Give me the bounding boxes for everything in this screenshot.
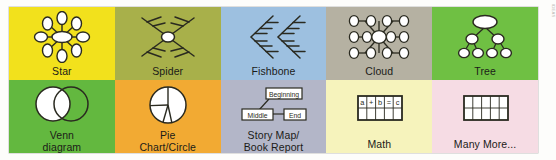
math-table-icon: a + b = c xyxy=(326,80,432,139)
cell-spider[interactable]: Spider xyxy=(115,7,221,80)
math-cell-b: b xyxy=(378,98,382,107)
organizer-grid: Star xyxy=(9,7,538,153)
cell-label-pie: Pie Chart/Circle xyxy=(115,130,221,153)
math-cell-plus: + xyxy=(369,98,373,107)
cell-pie[interactable]: Pie Chart/Circle xyxy=(115,80,221,153)
fishbone-diagram-icon xyxy=(221,7,327,66)
math-cell-c: c xyxy=(396,98,400,107)
cell-label-cloud: Cloud xyxy=(326,66,432,81)
cell-star[interactable]: Star xyxy=(9,7,115,80)
story-box-label-middle: Middle xyxy=(248,112,268,119)
cell-label-math: Math xyxy=(326,139,432,154)
math-cell-equals: = xyxy=(387,98,391,107)
story-map-icon: Beginning Middle End xyxy=(221,80,327,130)
tree-diagram-icon xyxy=(432,7,538,66)
cell-many-more[interactable]: Many More... xyxy=(432,80,538,153)
cell-label-star: Star xyxy=(9,66,115,81)
story-box-label-beginning: Beginning xyxy=(269,91,299,99)
graphic-organizers-chart: Star xyxy=(0,0,556,160)
cell-label-many-more: Many More... xyxy=(432,139,538,154)
venn-diagram-icon xyxy=(9,80,115,130)
blank-table-icon xyxy=(432,80,538,139)
pie-chart-icon xyxy=(115,80,221,130)
cell-label-story-map-line2: Book Report xyxy=(221,142,327,154)
cell-label-spider: Spider xyxy=(115,66,221,81)
watermark-credit: IDEAS xyxy=(546,4,555,18)
cell-tree[interactable]: Tree xyxy=(432,7,538,80)
story-box-label-end: End xyxy=(289,112,301,119)
cloud-diagram-icon xyxy=(326,7,432,66)
cell-label-venn: Venn diagram xyxy=(9,130,115,153)
cell-venn[interactable]: Venn diagram xyxy=(9,80,115,153)
cell-label-story-map: Story Map/ Book Report xyxy=(221,130,327,153)
cell-label-tree: Tree xyxy=(432,66,538,81)
cell-label-venn-line1: Venn xyxy=(9,130,115,142)
cell-label-venn-line2: diagram xyxy=(9,142,115,154)
cell-cloud[interactable]: Cloud xyxy=(326,7,432,80)
spider-diagram-icon xyxy=(115,7,221,66)
cell-story-map[interactable]: Beginning Middle End Story Map/ Book Rep… xyxy=(221,80,327,153)
cell-label-pie-line1: Pie xyxy=(115,130,221,142)
cell-label-pie-line2: Chart/Circle xyxy=(115,142,221,154)
star-diagram-icon xyxy=(9,7,115,66)
cell-math[interactable]: a + b = c Math xyxy=(326,80,432,153)
cell-fishbone[interactable]: Fishbone xyxy=(221,7,327,80)
cell-label-story-map-line1: Story Map/ xyxy=(221,130,327,142)
cell-label-fishbone: Fishbone xyxy=(221,66,327,81)
